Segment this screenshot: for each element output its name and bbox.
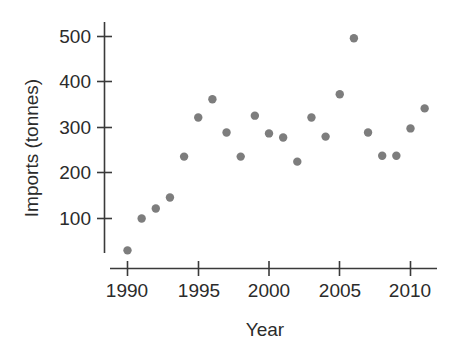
chart-figure: 500 400 300 200 100 1990 1995 2000 2005 … bbox=[0, 0, 453, 358]
x-tick-label-2000: 2000 bbox=[248, 280, 290, 301]
data-point bbox=[364, 128, 372, 136]
data-point bbox=[420, 104, 428, 112]
data-point bbox=[307, 113, 315, 121]
data-point bbox=[237, 152, 245, 160]
y-tick-label-400: 400 bbox=[59, 71, 91, 92]
y-tick-label-300: 300 bbox=[59, 117, 91, 138]
data-point bbox=[293, 157, 301, 165]
data-point bbox=[378, 152, 386, 160]
data-point bbox=[321, 132, 329, 140]
data-point bbox=[406, 124, 414, 132]
data-point bbox=[180, 152, 188, 160]
data-point bbox=[350, 34, 358, 42]
y-tick-label-500: 500 bbox=[59, 26, 91, 47]
x-tick-label-1995: 1995 bbox=[178, 280, 220, 301]
data-point bbox=[194, 113, 202, 121]
data-point bbox=[137, 214, 145, 222]
x-tick-label-1990: 1990 bbox=[106, 280, 148, 301]
x-tick-label-2005: 2005 bbox=[319, 280, 361, 301]
data-point bbox=[152, 204, 160, 212]
data-point bbox=[265, 129, 273, 137]
y-axis-title: Imports (tonnes) bbox=[21, 79, 42, 217]
data-point bbox=[336, 90, 344, 98]
y-tick-label-100: 100 bbox=[59, 208, 91, 229]
x-axis-tick-labels: 1990 1995 2000 2005 2010 bbox=[106, 280, 431, 301]
scatter-plot: 500 400 300 200 100 1990 1995 2000 2005 … bbox=[0, 0, 453, 358]
x-axis-title: Year bbox=[246, 319, 285, 340]
data-point bbox=[166, 193, 174, 201]
data-points-layer bbox=[123, 34, 429, 254]
data-point bbox=[222, 128, 230, 136]
data-point bbox=[279, 133, 287, 141]
data-point bbox=[208, 95, 216, 103]
data-point bbox=[392, 152, 400, 160]
data-point bbox=[123, 246, 131, 254]
data-point bbox=[251, 111, 259, 119]
y-axis-tick-labels: 500 400 300 200 100 bbox=[59, 26, 91, 229]
x-tick-label-2010: 2010 bbox=[389, 280, 431, 301]
y-tick-label-200: 200 bbox=[59, 162, 91, 183]
